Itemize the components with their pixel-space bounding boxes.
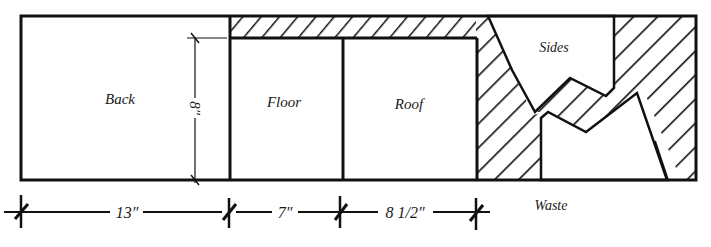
tick-mark	[223, 198, 236, 228]
height-label: 8″	[187, 101, 203, 116]
panel-label-roof: Roof	[394, 96, 425, 112]
cutting-diagram: 8″ 13″ 7″ 8 1/2″ Back Floor Roof Si	[0, 0, 711, 247]
back-width-label: 13″	[116, 204, 139, 221]
panel-label-floor: Floor	[266, 94, 301, 110]
panel-label-back: Back	[105, 91, 135, 107]
waste-strip-top	[230, 16, 492, 38]
tick-mark	[470, 198, 483, 230]
dimension-widths: 13″ 7″ 8 1/2″	[4, 195, 490, 230]
roof-width-label: 8 1/2″	[385, 204, 424, 221]
panel-label-sides: Sides	[539, 40, 569, 55]
dimension-height: 8″	[187, 33, 227, 185]
floor-width-label: 7″	[278, 204, 293, 221]
waste-label: Waste	[535, 198, 568, 213]
